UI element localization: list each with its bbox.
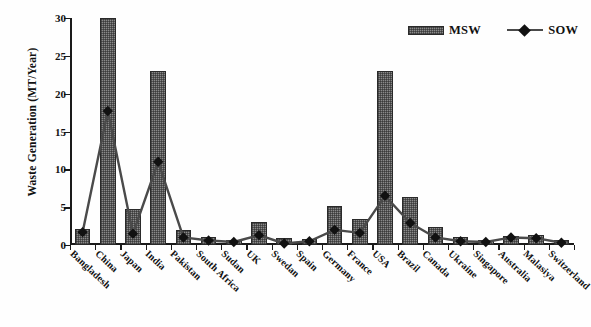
sow-marker (506, 232, 516, 242)
sow-marker (254, 230, 264, 240)
x-axis-label: UK (244, 248, 263, 266)
y-axis-title: Waste Generation (MT/Year) (26, 12, 46, 232)
x-axis-label: India (144, 248, 169, 272)
chart-figure: Waste Generation (MT/Year) 051015202530 … (0, 0, 591, 327)
sow-polyline (83, 111, 562, 243)
sow-markers (77, 106, 566, 249)
legend-item-sow: SOW (507, 23, 578, 38)
sow-marker (103, 106, 113, 116)
sow-marker (203, 235, 213, 245)
y-tick-label: 25 (55, 50, 66, 62)
sow-marker (128, 228, 138, 238)
x-axis-label: Brazil (396, 248, 423, 274)
sow-marker (556, 238, 566, 248)
msw-swatch-icon (408, 26, 444, 35)
x-axis-label: Switzerland (547, 248, 591, 292)
sow-marker (178, 232, 188, 242)
sow-marker (481, 237, 491, 247)
sow-swatch-icon (507, 25, 543, 35)
plot-area: 051015202530 (70, 18, 574, 245)
sow-marker (455, 236, 465, 246)
y-tick-label: 0 (61, 239, 67, 251)
chart-legend: MSW SOW (408, 20, 578, 40)
sow-marker (430, 232, 440, 242)
x-axis-labels: BangladeshChinaJapanIndiaPakistanSouth A… (70, 248, 574, 326)
sow-marker (329, 225, 339, 235)
y-tick-label: 15 (55, 126, 66, 138)
legend-item-msw: MSW (408, 23, 481, 38)
line-series-sow (70, 18, 574, 245)
sow-marker (304, 236, 314, 246)
legend-label-msw: MSW (449, 23, 481, 38)
x-axis-label: Japan (118, 248, 145, 274)
y-tick-label: 5 (61, 201, 67, 213)
sow-marker (153, 157, 163, 167)
sow-marker (77, 227, 87, 237)
y-tick-label: 20 (55, 88, 66, 100)
y-tick-label: 10 (55, 163, 66, 175)
legend-label-sow: SOW (548, 23, 578, 38)
sow-marker (229, 237, 239, 247)
x-tick-mark (574, 245, 575, 250)
sow-marker (531, 233, 541, 243)
y-tick-label: 30 (55, 12, 66, 24)
